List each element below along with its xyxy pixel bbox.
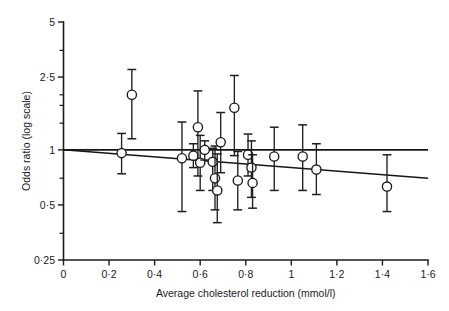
study-marker-15 (248, 178, 257, 187)
x-tick-label-1: 0·2 (101, 268, 116, 280)
y-tick-label-2: 1 (49, 144, 55, 156)
data-point-1 (127, 69, 136, 138)
study-marker-16 (270, 152, 279, 161)
study-marker-17 (298, 152, 307, 161)
x-tick-label-5: 1 (288, 268, 294, 280)
y-tick-label-4: 5 (49, 16, 55, 28)
x-tick-label-6: 1·2 (329, 268, 344, 280)
study-marker-4 (193, 123, 202, 132)
study-marker-18 (312, 165, 321, 174)
x-tick-label-3: 0·6 (193, 268, 208, 280)
study-marker-12 (233, 176, 242, 185)
x-tick-label-4: 0·8 (238, 268, 253, 280)
study-marker-1 (127, 90, 136, 99)
odds-ratio-scatter-plot: 0·250·512·5500·20·40·60·811·21·41·6Avera… (0, 0, 449, 311)
study-marker-19 (382, 182, 391, 191)
study-marker-8 (210, 174, 219, 183)
y-tick-label-3: 2·5 (40, 71, 55, 83)
x-tick-label-7: 1·4 (375, 268, 390, 280)
data-point-11 (230, 75, 239, 155)
data-point-16 (270, 127, 279, 190)
data-points-layer (117, 69, 392, 222)
study-marker-0 (117, 149, 126, 158)
study-marker-2 (177, 154, 186, 163)
data-point-2 (177, 122, 186, 212)
axes-layer (58, 22, 428, 266)
data-point-6 (200, 141, 209, 160)
y-tick-label-1: 0·5 (40, 199, 55, 211)
data-point-18 (312, 144, 321, 195)
x-tick-label-0: 0 (61, 268, 67, 280)
figure-container: 0·250·512·5500·20·40·60·811·21·41·6Avera… (0, 0, 449, 311)
y-tick-label-0: 0·25 (34, 254, 55, 266)
data-point-8 (210, 146, 219, 210)
data-point-12 (233, 151, 242, 209)
data-point-0 (117, 133, 126, 173)
study-marker-3 (189, 151, 198, 160)
study-marker-6 (200, 145, 209, 154)
study-marker-7 (208, 157, 217, 166)
study-marker-11 (230, 103, 239, 112)
study-marker-9 (213, 186, 222, 195)
x-tick-label-2: 0·4 (147, 268, 162, 280)
y-axis-title: Odds ratio (log scale) (20, 91, 32, 191)
data-point-19 (382, 155, 391, 212)
x-axis-title: Average cholesterol reduction (mmol/l) (156, 287, 336, 299)
x-tick-label-8: 1·6 (420, 268, 435, 280)
axis-labels-layer: 0·250·512·5500·20·40·60·811·21·41·6Avera… (20, 16, 436, 299)
data-point-17 (298, 125, 307, 191)
study-marker-10 (216, 138, 225, 147)
study-marker-14 (247, 163, 256, 172)
